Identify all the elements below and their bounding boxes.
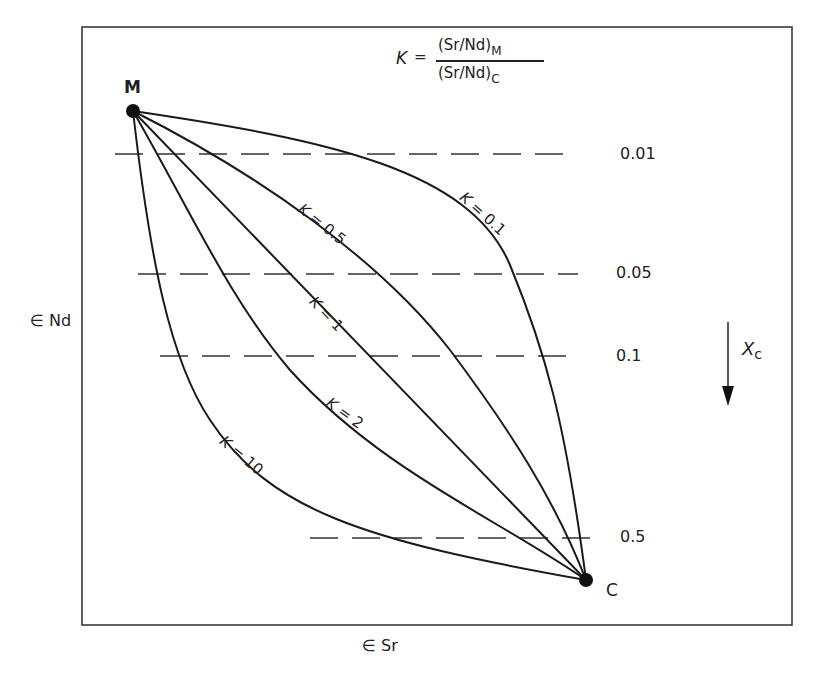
curve-k-1	[133, 111, 586, 580]
fraction-label-0.1: 0.1	[616, 346, 641, 365]
endpoint-m-dot	[126, 104, 140, 118]
y-axis-label: ∈ Nd	[30, 311, 71, 330]
formula-equals: =	[414, 48, 427, 66]
denominator-text: (Sr/Nd)	[438, 64, 491, 82]
endpoint-m-label: M	[124, 77, 141, 97]
fraction-label-0.5: 0.5	[620, 527, 645, 546]
numerator-subscript: M	[491, 44, 501, 58]
fraction-label-0.01: 0.01	[620, 144, 656, 163]
xc-x: X	[742, 338, 754, 359]
fraction-label-0.05: 0.05	[616, 263, 652, 282]
plot-frame	[82, 27, 792, 625]
formula-k: K	[396, 48, 407, 68]
fraction-bar	[436, 60, 544, 62]
xc-label: Xc	[742, 338, 762, 359]
numerator-text: (Sr/Nd)	[438, 36, 491, 54]
endpoint-c-label: C	[606, 580, 618, 600]
xc-subscript: c	[754, 346, 762, 362]
endpoint-c-dot	[579, 573, 593, 587]
x-axis-label: ∈ Sr	[362, 636, 398, 655]
formula-denominator: (Sr/Nd)C	[438, 64, 500, 82]
formula-numerator: (Sr/Nd)M	[438, 36, 502, 54]
denominator-subscript: C	[491, 72, 499, 86]
xc-arrow-head-icon	[722, 386, 734, 406]
mixing-diagram	[0, 0, 816, 673]
